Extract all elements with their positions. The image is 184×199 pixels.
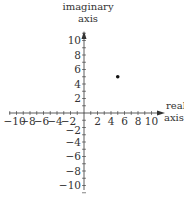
y-tick-label: 6 xyxy=(74,63,81,75)
y-tick-label: 10 xyxy=(68,34,81,46)
x-tick-label: 10 xyxy=(145,115,158,127)
y-tick-label: 4 xyxy=(74,78,81,90)
x-tick-label: 6 xyxy=(121,115,128,127)
x-tick-label: 2 xyxy=(94,115,101,127)
y-tick-label: −8 xyxy=(66,165,81,177)
y-tick-label: −6 xyxy=(66,150,82,162)
labels-layer: imaginary axis real axis −10−8−6−4−22468… xyxy=(0,0,184,199)
x-tick-label: 4 xyxy=(108,115,115,127)
y-tick-labels: 108642−2−4−6−8−10 xyxy=(59,34,81,191)
y-tick-label: −10 xyxy=(59,179,81,191)
imaginary-axis-label-2: axis xyxy=(78,13,98,24)
y-tick-label: 8 xyxy=(74,49,81,61)
real-axis-label: real xyxy=(166,100,184,111)
imaginary-axis-label: imaginary xyxy=(62,1,113,12)
y-tick-label: 2 xyxy=(74,92,81,104)
x-tick-label: 8 xyxy=(135,115,142,127)
y-tick-label: −4 xyxy=(66,136,82,148)
y-tick-label: −2 xyxy=(66,124,81,136)
real-axis-label-2: axis xyxy=(164,112,184,123)
